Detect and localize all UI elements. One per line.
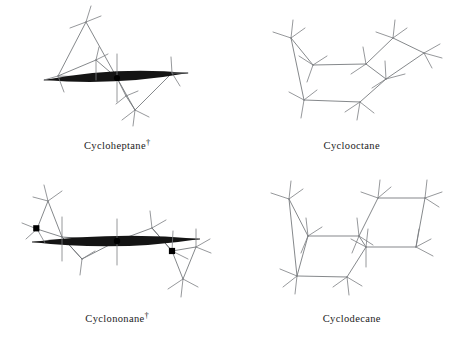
- cyclononane-structure: [0, 173, 234, 313]
- cycloheptane-ring-bonds: [58, 22, 172, 110]
- cyclodecane-ring-bonds: [289, 198, 425, 277]
- caption-cyclooctane-text: Cyclooctane: [324, 140, 380, 151]
- cycloalkane-figure: Cycloheptane†: [0, 0, 469, 345]
- caption-cyclodecane: Cyclodecane: [323, 313, 381, 324]
- cycloheptane-structure: [0, 0, 234, 140]
- cyclononane-marker-right: [169, 247, 175, 253]
- cyclononane-marker-left: [33, 225, 39, 231]
- caption-cycloheptane: Cycloheptane†: [84, 140, 151, 151]
- cyclooctane-structure: [235, 0, 469, 140]
- caption-cyclooctane: Cyclooctane: [324, 140, 380, 151]
- caption-cyclononane-dagger: †: [145, 309, 150, 319]
- caption-cyclodecane-text: Cyclodecane: [323, 313, 381, 324]
- panel-cycloheptane: Cycloheptane†: [0, 0, 235, 173]
- cyclononane-center-marker: [114, 237, 120, 243]
- caption-cycloheptane-text: Cycloheptane: [84, 140, 146, 151]
- cycloheptane-hydrogens: [44, 6, 188, 126]
- caption-cyclononane-text: Cyclononane: [85, 313, 144, 324]
- cyclodecane-structure: [235, 173, 469, 313]
- panel-cyclodecane: Cyclodecane: [235, 173, 469, 345]
- caption-cycloheptane-dagger: †: [146, 137, 151, 147]
- panel-cyclononane: Cyclononane†: [0, 173, 235, 345]
- cyclooctane-hydrogens: [273, 20, 442, 120]
- cyclodecane-hydrogens: [271, 180, 442, 295]
- panel-cyclooctane: Cyclooctane: [235, 0, 469, 173]
- cycloheptane-center-marker: [114, 75, 120, 81]
- caption-cyclononane: Cyclononane†: [85, 313, 149, 324]
